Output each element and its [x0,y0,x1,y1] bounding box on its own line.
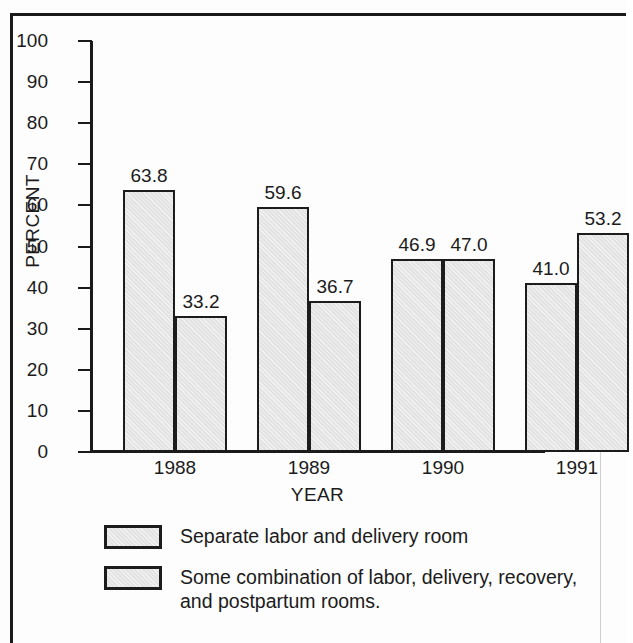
plot-area: PERCENT YEAR 1009080706050403020100 1988… [0,0,626,500]
bar [257,207,309,452]
y-axis-tick-label: 40 [2,278,48,297]
bar-value-label: 36.7 [301,276,369,298]
y-axis-tick-label: 20 [2,360,48,379]
y-axis-tick-label: 80 [2,113,48,132]
bar-value-label: 53.2 [569,208,633,230]
bar-value-label: 63.8 [115,165,183,187]
y-axis-tick-label: 0 [2,442,48,461]
bar-value-label: 33.2 [167,291,235,313]
y-axis-tick [78,369,92,371]
bar-value-label: 59.6 [249,182,317,204]
x-axis-category-label: 1989 [243,457,375,479]
chart-legend: Separate labor and delivery room Some co… [104,524,604,629]
y-axis-tick-label: 100 [2,31,48,50]
y-axis-tick [78,287,92,289]
y-axis-tick-label: 50 [2,237,48,256]
legend-item-separate: Separate labor and delivery room [104,524,604,549]
y-axis-tick [78,163,92,165]
y-axis-tick [78,451,92,453]
y-axis-tick [78,328,92,330]
y-axis-tick [78,40,92,42]
x-axis-title: YEAR [90,484,545,506]
y-axis-tick [78,204,92,206]
legend-item-label: Some combination of labor, delivery, rec… [180,565,604,613]
legend-item-label: Separate labor and delivery room [180,524,468,548]
bar [391,259,443,452]
bar-value-label: 47.0 [435,234,503,256]
legend-swatch-icon [104,566,162,590]
y-axis-tick-label: 90 [2,72,48,91]
y-axis-tick-label: 60 [2,195,48,214]
bar [123,190,175,452]
x-axis-category-label: 1991 [511,457,633,479]
bar [175,316,227,452]
y-axis-tick [78,246,92,248]
x-axis-category-label: 1988 [109,457,241,479]
bar [443,259,495,452]
y-axis-tick-label: 30 [2,319,48,338]
x-axis-category-label: 1990 [377,457,509,479]
bar-value-label: 41.0 [517,258,585,280]
y-axis-tick-label: 10 [2,401,48,420]
y-axis-tick [78,122,92,124]
bar [525,283,577,452]
y-axis-tick [78,410,92,412]
legend-item-combination: Some combination of labor, delivery, rec… [104,565,604,613]
legend-swatch-icon [104,525,162,549]
y-axis-tick [78,81,92,83]
bar [309,301,361,452]
y-axis-tick-label: 70 [2,154,48,173]
